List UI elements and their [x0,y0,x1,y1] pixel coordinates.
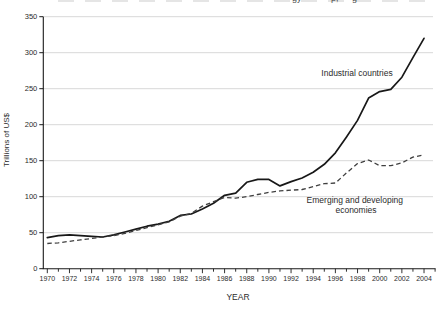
x-tick-label: 1970 [40,275,56,282]
axis-lines [43,17,435,269]
x-tick-label: 1998 [350,275,366,282]
x-tick-label: 2002 [394,275,410,282]
x-tick-label: 1994 [305,275,321,282]
x-tick-label: 1976 [106,275,122,282]
y-tick-label: 50 [29,228,37,237]
x-tick-label: 1972 [62,275,78,282]
y-tick-label: 100 [25,192,38,201]
x-tick-label: 1974 [84,275,100,282]
x-axis-title: YEAR [226,292,249,302]
y-tick-label: 300 [25,48,38,57]
x-axis-ticks [47,269,435,274]
y-tick-label: 350 [25,12,38,21]
y-tick-label: 250 [25,84,38,93]
y-axis-ticks [39,17,43,269]
x-tick-label: 1984 [195,275,211,282]
x-tick-label: 1986 [217,275,233,282]
y-tick-label: 150 [25,156,38,165]
x-tick-label: 1992 [283,275,299,282]
y-axis-tick-labels: 050100150200250300350 [25,12,38,273]
line-chart-figure: gy p, g 050100150200250300350 1970197219… [0,0,438,312]
x-tick-label: 1978 [128,275,144,282]
x-tick-label: 2004 [416,275,432,282]
x-tick-label: 2000 [372,275,388,282]
y-tick-label: 200 [25,120,38,129]
y-tick-label: 0 [33,264,37,273]
chart-canvas: 050100150200250300350 197019721974197619… [0,0,438,312]
x-tick-label: 1982 [172,275,188,282]
x-tick-label: 1990 [261,275,277,282]
series-label-industrial-countries: Industrial countries [321,68,392,78]
y-axis-title: Trillions of US$ [2,112,11,166]
x-tick-label: 1996 [328,275,344,282]
x-tick-label: 1988 [239,275,255,282]
series-label-emerging-developing: Emerging and developing economies [307,195,406,215]
x-axis-tick-labels: 1970197219741976197819801982198419861988… [40,275,432,282]
x-tick-label: 1980 [150,275,166,282]
